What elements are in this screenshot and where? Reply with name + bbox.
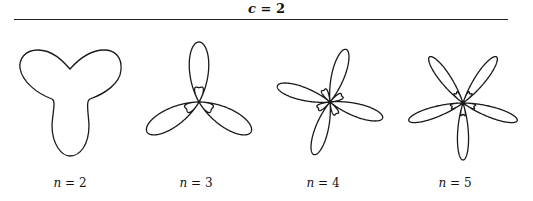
label-value: = 5 — [446, 176, 471, 190]
curve-n4 — [277, 49, 382, 154]
curve-n3 — [146, 42, 251, 135]
panel-label-n3: n = 3 — [156, 176, 236, 190]
label-value: = 3 — [187, 176, 212, 190]
curve-n5 — [409, 57, 518, 160]
panel-label-n4: n = 4 — [283, 176, 363, 190]
panel-label-n5: n = 5 — [415, 176, 495, 190]
curves-canvas — [0, 0, 533, 201]
curve-n2 — [20, 50, 121, 156]
label-value: = 4 — [314, 176, 339, 190]
label-value: = 2 — [61, 176, 86, 190]
panel-label-n2: n = 2 — [30, 176, 110, 190]
